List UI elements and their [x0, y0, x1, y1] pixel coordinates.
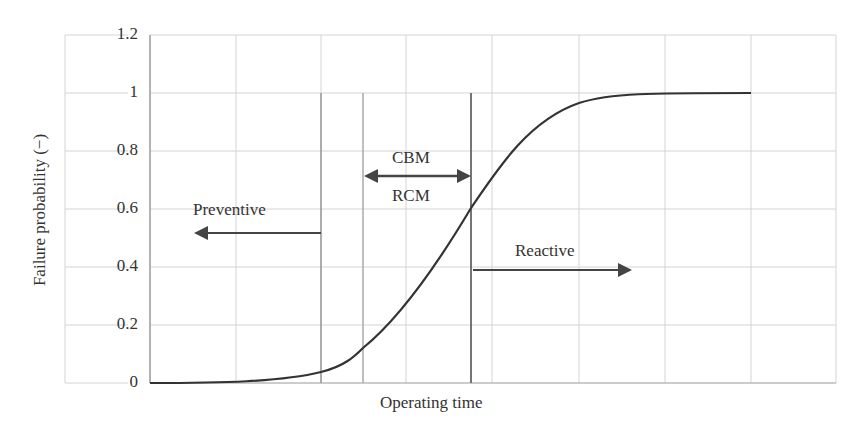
- cbm-left-arrow-icon: [364, 169, 378, 183]
- y-tick-1.2: 1.2: [98, 24, 138, 44]
- reactive-label: Reactive: [515, 241, 574, 261]
- y-tick-0.2: 0.2: [98, 314, 138, 334]
- y-tick-0.8: 0.8: [98, 140, 138, 160]
- preventive-label: Preventive: [193, 200, 266, 220]
- reactive-arrow-icon: [618, 263, 632, 277]
- cbm-right-arrow-icon: [457, 169, 471, 183]
- rcm-label: RCM: [392, 186, 430, 206]
- failure-probability-curve: [150, 93, 751, 383]
- y-tick-0: 0: [98, 372, 138, 392]
- cbm-label: CBM: [392, 148, 430, 168]
- preventive-arrow-icon: [194, 226, 208, 240]
- y-tick-0.4: 0.4: [98, 256, 138, 276]
- x-axis-label: Operating time: [380, 393, 482, 413]
- y-axis-label: Failure probability (−): [30, 110, 50, 310]
- y-tick-0.6: 0.6: [98, 198, 138, 218]
- grid: [65, 35, 836, 383]
- y-tick-1: 1: [98, 82, 138, 102]
